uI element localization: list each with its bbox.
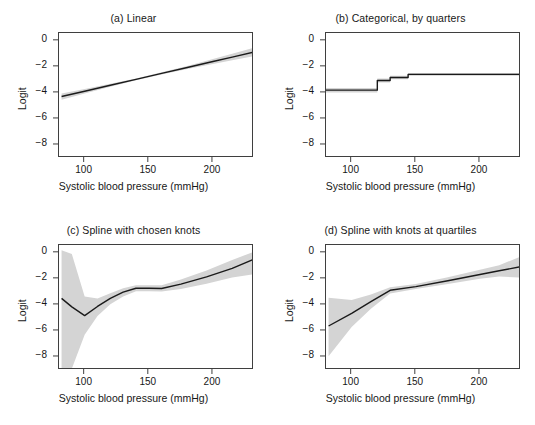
x-tick-label-a-0: 100 — [67, 164, 101, 175]
x-tick-label-c-2: 200 — [195, 376, 229, 387]
panel-d-plot-area — [325, 244, 520, 369]
panel-b-series-svg — [326, 33, 520, 157]
chart-panel-b: (b) Categorical, by quarters Logit Systo… — [267, 0, 534, 212]
x-tick-label-b-1: 150 — [398, 164, 432, 175]
panel-b-x-axis-label: Systolic blood pressure (mmHg) — [267, 180, 534, 192]
confidence-band-c — [62, 250, 253, 368]
y-tick-label-d-0: 0 — [292, 245, 314, 256]
y-tick-label-a-3: −6 — [25, 111, 47, 122]
y-tick-label-c-4: −8 — [25, 349, 47, 360]
chart-panel-a: (a) Linear Logit Systolic blood pressure… — [0, 0, 267, 212]
panel-a-series-svg — [59, 33, 253, 157]
y-tick-label-d-1: −2 — [292, 271, 314, 282]
figure-panel-grid: (a) Linear Logit Systolic blood pressure… — [0, 0, 535, 425]
y-tick-label-c-2: −4 — [25, 297, 47, 308]
y-tick-label-a-2: −4 — [25, 85, 47, 96]
chart-panel-c: (c) Spline with chosen knots Logit Systo… — [0, 212, 267, 424]
panel-c-x-axis-label: Systolic blood pressure (mmHg) — [0, 392, 267, 404]
panel-a-plot-area — [58, 32, 253, 157]
y-tick-label-a-1: −2 — [25, 59, 47, 70]
panel-b-plot-area — [325, 32, 520, 157]
x-tick-label-a-1: 150 — [131, 164, 165, 175]
panel-c-series-svg — [59, 245, 253, 369]
panel-c-title: (c) Spline with chosen knots — [0, 224, 267, 236]
panel-d-x-axis-label: Systolic blood pressure (mmHg) — [267, 392, 534, 404]
y-tick-label-b-4: −8 — [292, 137, 314, 148]
y-tick-label-d-4: −8 — [292, 349, 314, 360]
panel-a-x-axis-label: Systolic blood pressure (mmHg) — [0, 180, 267, 192]
x-tick-label-d-0: 100 — [334, 376, 368, 387]
panel-d-series-svg — [326, 245, 520, 369]
y-tick-label-a-0: 0 — [25, 33, 47, 44]
panel-d-title: (d) Spline with knots at quartiles — [267, 224, 534, 236]
x-tick-label-a-2: 200 — [195, 164, 229, 175]
x-tick-label-b-0: 100 — [334, 164, 368, 175]
panel-c-plot-area — [58, 244, 253, 369]
y-tick-label-b-3: −6 — [292, 111, 314, 122]
y-tick-label-c-0: 0 — [25, 245, 47, 256]
chart-panel-d: (d) Spline with knots at quartiles Logit… — [267, 212, 534, 424]
x-tick-label-c-0: 100 — [67, 376, 101, 387]
series-line-a-0 — [62, 52, 253, 96]
y-tick-label-c-3: −6 — [25, 323, 47, 334]
y-tick-label-b-2: −4 — [292, 85, 314, 96]
x-tick-label-d-1: 150 — [398, 376, 432, 387]
y-tick-label-d-3: −6 — [292, 323, 314, 334]
y-tick-label-d-2: −4 — [292, 297, 314, 308]
panel-b-title: (b) Categorical, by quarters — [267, 12, 534, 24]
y-tick-label-b-1: −2 — [292, 59, 314, 70]
x-tick-label-c-1: 150 — [131, 376, 165, 387]
panel-a-title: (a) Linear — [0, 12, 267, 24]
y-tick-label-b-0: 0 — [292, 33, 314, 44]
x-tick-label-b-2: 200 — [462, 164, 496, 175]
x-tick-label-d-2: 200 — [462, 376, 496, 387]
y-tick-label-c-1: −2 — [25, 271, 47, 282]
series-line-b-0 — [326, 74, 520, 90]
y-tick-label-a-4: −8 — [25, 137, 47, 148]
